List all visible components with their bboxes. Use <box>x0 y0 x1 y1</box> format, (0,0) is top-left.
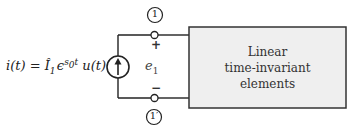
terminal-1-prime <box>151 95 158 102</box>
voltage-label: e1 <box>145 58 158 76</box>
source-equation: i(t) = Î1 ϵs0t u(t) <box>6 57 106 76</box>
plus-sign: + <box>151 38 161 52</box>
block-line-3: elements <box>240 76 295 92</box>
block-line-2: time-invariant <box>225 60 311 76</box>
minus-sign: − <box>151 81 161 95</box>
node-label-1-prime: 1′ <box>147 110 161 121</box>
block-line-1: Linear <box>248 44 288 60</box>
block-label: Linear time-invariant elements <box>189 27 346 108</box>
node-label-1: 1 <box>148 8 162 19</box>
current-source-icon <box>107 56 129 78</box>
